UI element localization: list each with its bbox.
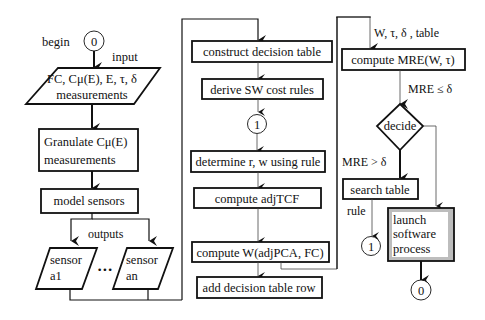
input-label: input (112, 50, 138, 64)
input-line1: FC, Cμ(E), E, τ, δ (47, 72, 137, 86)
end-connector-label: 0 (418, 284, 424, 298)
model-sensors-label: model sensors (53, 194, 124, 208)
sensor-an-node: sensor an (113, 248, 173, 289)
determine-node: determine r, w using rule (191, 151, 325, 172)
decide-label: decide (384, 119, 417, 133)
input-measurements-node: FC, Cμ(E), E, τ, δ measurements (26, 68, 160, 104)
start-connector: 0 (84, 31, 104, 51)
merge-line-a1 (70, 289, 182, 300)
construct-label: construct decision table (203, 45, 321, 59)
construct-node: construct decision table (192, 41, 332, 62)
granulate-line1: Granulate Cμ(E) (44, 135, 127, 149)
end-connector: 0 (411, 280, 431, 300)
granulate-line2: measurements (44, 153, 116, 167)
mre-le-delta-label: MRE ≤ δ (408, 82, 453, 96)
compute-mre-node: compute MRE(W, τ) (342, 49, 465, 70)
sensor-a1-node: sensor a1 (36, 248, 97, 289)
begin-label: begin (42, 35, 71, 49)
arrow-decide-to-launch (423, 126, 436, 206)
outputs-label: outputs (88, 227, 124, 241)
compute-adjtcf-label: compute adjTCF (215, 192, 299, 206)
launch-node: launch software process (388, 208, 454, 261)
compute-w-node: compute W(adjPCA, FC) (192, 242, 329, 262)
determine-label: determine r, w using rule (196, 155, 321, 169)
rule-loop-connector-a: 1 (248, 115, 267, 134)
compute-mre-label: compute MRE(W, τ) (351, 53, 455, 67)
launch-line1: launch (393, 213, 427, 227)
mre-gt-delta-label: MRE > δ (342, 155, 387, 169)
granulate-node: Granulate Cμ(E) measurements (39, 129, 138, 171)
flowchart: begin 0 input FC, Cμ(E), E, τ, δ measure… (0, 0, 485, 320)
search-table-node: search table (343, 179, 418, 199)
ellipsis: ••• (97, 265, 113, 275)
start-connector-label: 0 (91, 35, 97, 49)
add-row-node: add decision table row (197, 277, 322, 298)
launch-line2: software (393, 227, 436, 241)
column-3: W, τ, δ , table compute MRE(W, τ) MRE ≤ … (342, 26, 465, 300)
sensor-a1-line1: sensor (50, 253, 83, 267)
launch-line3: process (393, 242, 431, 256)
w-tau-delta-table-label: W, τ, δ , table (374, 26, 439, 40)
rule-label: rule (347, 204, 366, 218)
sensor-an-line1: sensor (126, 253, 159, 267)
derive-label: derive SW cost rules (210, 83, 314, 97)
connector-1b-label: 1 (368, 240, 374, 254)
add-row-label: add decision table row (203, 281, 316, 295)
sensor-a1-line2: a1 (50, 269, 62, 283)
input-line2: measurements (56, 88, 128, 102)
compute-w-label: compute W(adjPCA, FC) (196, 246, 323, 260)
search-table-label: search table (350, 183, 410, 197)
connector-1-label: 1 (254, 118, 260, 132)
decide-node: decide (377, 104, 423, 150)
sensor-an-line2: an (126, 269, 139, 283)
model-sensors-node: model sensors (41, 189, 138, 213)
rule-loop-connector-b: 1 (362, 237, 381, 256)
derive-node: derive SW cost rules (202, 79, 323, 99)
column-1: begin 0 input FC, Cμ(E), E, τ, δ measure… (26, 31, 182, 300)
compute-adjtcf-node: compute adjTCF (194, 188, 321, 208)
